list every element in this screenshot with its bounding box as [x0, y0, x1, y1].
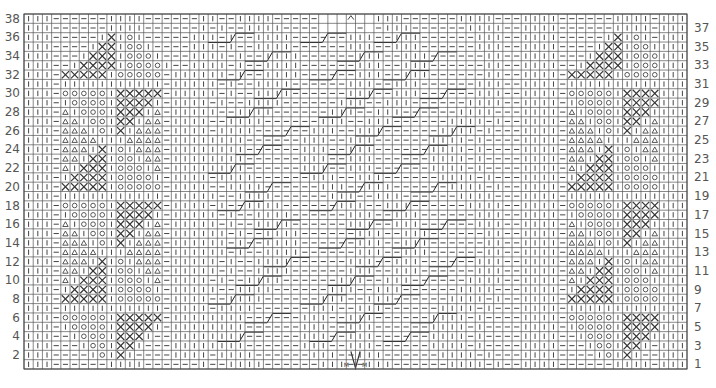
row-number-right: 27: [694, 115, 709, 127]
row-number-right: 13: [694, 246, 709, 258]
row-number-right: 1: [694, 358, 702, 370]
row-number-left: 30: [0, 87, 20, 99]
row-number-left: 24: [0, 143, 20, 155]
row-number-right: 11: [694, 265, 709, 277]
row-number-left: 12: [0, 256, 20, 268]
row-number-right: 19: [694, 190, 709, 202]
row-number-left: 8: [0, 293, 20, 305]
row-number-right: 25: [694, 134, 709, 146]
row-number-right: 35: [694, 41, 709, 53]
grid-lines: [24, 14, 687, 369]
chart-grid: MM: [0, 0, 716, 388]
row-number-left: 2: [0, 349, 20, 361]
row-number-left: 22: [0, 162, 20, 174]
row-number-left: 28: [0, 106, 20, 118]
row-number-left: 26: [0, 125, 20, 137]
row-number-right: 17: [694, 209, 709, 221]
row-number-right: 7: [694, 302, 702, 314]
row-number-left: 10: [0, 274, 20, 286]
row-number-right: 3: [694, 340, 702, 352]
row-number-left: 6: [0, 312, 20, 324]
row-number-left: 16: [0, 218, 20, 230]
row-number-right: 15: [694, 228, 709, 240]
row-number-left: 4: [0, 330, 20, 342]
row-number-left: 18: [0, 200, 20, 212]
knitting-chart: MM: [0, 0, 716, 388]
row-number-left: 38: [0, 13, 20, 25]
row-number-right: 23: [694, 153, 709, 165]
row-number-right: 37: [694, 22, 709, 34]
row-number-left: 34: [0, 50, 20, 62]
row-number-right: 5: [694, 321, 702, 333]
row-number-left: 36: [0, 31, 20, 43]
row-number-right: 31: [694, 78, 709, 90]
row-number-left: 32: [0, 69, 20, 81]
row-number-right: 33: [694, 59, 709, 71]
row-number-right: 29: [694, 97, 709, 109]
row-number-right: 21: [694, 171, 709, 183]
row-number-left: 20: [0, 181, 20, 193]
row-number-left: 14: [0, 237, 20, 249]
row-number-right: 9: [694, 284, 702, 296]
